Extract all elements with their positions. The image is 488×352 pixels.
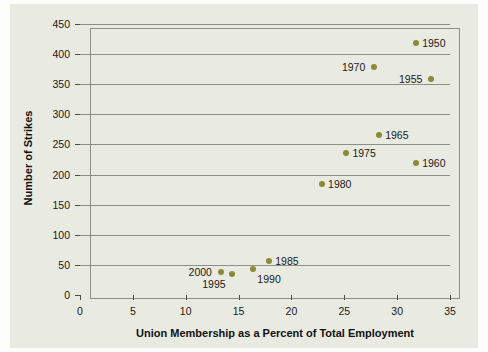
data-point-label: 1990 <box>257 274 280 285</box>
y-tick-label: 100 <box>28 230 70 241</box>
gridline <box>80 205 450 206</box>
x-tick-label: 0 <box>60 306 100 317</box>
data-point <box>371 64 377 70</box>
x-tick-label: 20 <box>271 306 311 317</box>
x-tick-mark <box>80 295 81 300</box>
data-point-label: 1980 <box>328 179 351 190</box>
gridline <box>80 54 450 55</box>
data-point-label: 1985 <box>275 256 298 267</box>
data-point-label: 1995 <box>202 279 225 290</box>
gridline <box>80 175 450 176</box>
data-point-label: 1950 <box>422 38 445 49</box>
data-point-label: 1970 <box>342 62 365 73</box>
data-point <box>343 150 349 156</box>
x-axis-title: Union Membership as a Percent of Total E… <box>90 327 460 339</box>
data-point <box>266 258 272 264</box>
data-point <box>428 76 434 82</box>
x-tick-label: 25 <box>324 306 364 317</box>
chart-panel: Number of Strikes Union Membership as a … <box>10 4 478 348</box>
y-tick-label: 400 <box>28 49 70 60</box>
gridline <box>80 24 450 25</box>
x-tick-mark <box>186 295 187 300</box>
y-axis-title: Number of Strikes <box>22 78 34 238</box>
figure-container: Number of Strikes Union Membership as a … <box>0 0 488 352</box>
y-tick-label: 0 <box>28 290 70 301</box>
data-point <box>376 132 382 138</box>
x-tick-mark <box>344 295 345 300</box>
y-tick-label: 250 <box>28 139 70 150</box>
x-tick-mark <box>291 295 292 300</box>
x-tick-mark <box>450 295 451 300</box>
x-tick-mark <box>239 295 240 300</box>
x-tick-mark <box>397 295 398 300</box>
data-point-label: 1975 <box>352 148 375 159</box>
data-point <box>218 269 224 275</box>
x-tick-label: 35 <box>430 306 470 317</box>
data-point <box>413 160 419 166</box>
y-tick-label: 300 <box>28 109 70 120</box>
data-point-label: 1955 <box>399 74 422 85</box>
x-tick-label: 15 <box>219 306 259 317</box>
gridline <box>80 144 450 145</box>
y-tick-label: 200 <box>28 170 70 181</box>
x-tick-label: 10 <box>166 306 206 317</box>
gridline <box>80 235 450 236</box>
data-point <box>229 271 235 277</box>
data-point <box>250 266 256 272</box>
data-point-label: 1965 <box>385 130 408 141</box>
data-point <box>319 181 325 187</box>
data-point-label: 2000 <box>189 267 212 278</box>
data-point <box>413 40 419 46</box>
y-tick-label: 150 <box>28 200 70 211</box>
x-tick-mark <box>133 295 134 300</box>
y-tick-label: 50 <box>28 260 70 271</box>
gridline <box>80 265 450 266</box>
y-tick-label: 350 <box>28 79 70 90</box>
data-point-label: 1960 <box>422 158 445 169</box>
gridline <box>80 114 450 115</box>
x-tick-label: 30 <box>377 306 417 317</box>
x-tick-label: 5 <box>113 306 153 317</box>
y-tick-label: 450 <box>28 19 70 30</box>
gridline <box>80 84 450 85</box>
